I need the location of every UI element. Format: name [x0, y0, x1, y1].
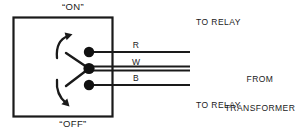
wire-label-b: B: [128, 74, 144, 84]
switch-off-label: “OFF”: [34, 119, 112, 130]
callout-transformer-line1: FROM: [218, 75, 302, 85]
switch-on-label: “ON”: [34, 2, 112, 13]
callout-from-transformer: FROM TRANSFORMER: [218, 55, 302, 133]
terminal-dot-w-pivot: [83, 63, 94, 74]
callout-to-relay-top: TO RELAY: [196, 18, 241, 28]
callout-transformer-line2: TRANSFORMER: [218, 104, 302, 114]
terminal-dot-r: [84, 47, 94, 57]
switch-wiring-diagram: “ON” “OFF” R W B TO RELAY TO RELAY FROM …: [0, 0, 304, 134]
terminal-dot-b: [84, 80, 94, 90]
wire-label-w: W: [128, 58, 144, 68]
wire-label-r: R: [128, 41, 144, 51]
